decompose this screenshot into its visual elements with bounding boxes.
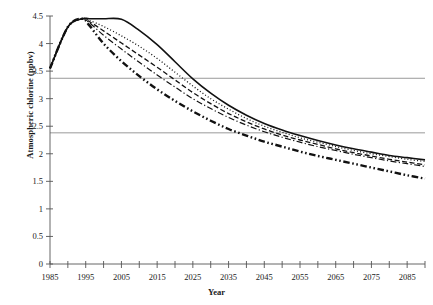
scenario-dash-dot-dot-thick (50, 19, 425, 179)
scenario-dashed (50, 18, 425, 164)
y-tick-label: 3 (39, 94, 43, 104)
x-tick-label: 2085 (399, 272, 416, 282)
y-tick-label: 0 (39, 259, 43, 269)
data-series-group (50, 18, 425, 178)
x-tick-label: 2005 (113, 272, 130, 282)
x-tick-label: 2025 (184, 272, 201, 282)
x-tick-label: 2015 (149, 272, 166, 282)
scenario-dash-dot-thin (50, 19, 425, 167)
scenario-dotted (50, 18, 425, 161)
y-tick-label: 2 (39, 149, 43, 159)
reference-lines-group (50, 78, 425, 133)
scenario-solid (50, 18, 425, 160)
x-tick-label: 2035 (220, 272, 237, 282)
chart-canvas: 00.511.522.533.544.5 1985199520052015202… (0, 0, 433, 305)
x-axis-title: Year (0, 287, 433, 297)
y-tick-label: 4 (39, 39, 44, 49)
x-tick-label: 2045 (256, 272, 273, 282)
y-tick-label: 0.5 (32, 231, 43, 241)
y-axis-title: Atmospheric chlorine (ppbv) (25, 15, 35, 195)
x-tick-labels: 1985199520052015202520352045205520652075… (42, 272, 416, 282)
chart-figure: 00.511.522.533.544.5 1985199520052015202… (0, 0, 433, 305)
x-tick-label: 2065 (327, 272, 344, 282)
x-tick-label: 2075 (363, 272, 380, 282)
x-tick-label: 1985 (42, 272, 59, 282)
x-tick-label: 1995 (77, 272, 94, 282)
axes-group (46, 16, 425, 268)
y-tick-label: 1 (39, 204, 43, 214)
x-tick-label: 2055 (292, 272, 309, 282)
